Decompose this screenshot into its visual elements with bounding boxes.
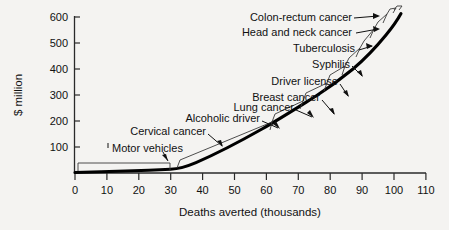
x-tick-100: 100 bbox=[385, 184, 403, 196]
x-tick-80: 80 bbox=[324, 184, 336, 196]
x-tick-0: 0 bbox=[72, 184, 78, 196]
y-axis-title: $ million bbox=[12, 74, 24, 116]
x-tick-110: 110 bbox=[417, 184, 435, 196]
y-tick-200: 200 bbox=[50, 115, 68, 127]
label-cervical-cancer: Cervical cancer bbox=[130, 125, 206, 137]
chart-svg: 600 500 400 300 200 100 0 10 20 30 40 50… bbox=[0, 0, 449, 230]
y-tick-100: 100 bbox=[50, 141, 68, 153]
label-syphilis: Syphilis bbox=[312, 58, 350, 70]
chart-figure: 600 500 400 300 200 100 0 10 20 30 40 50… bbox=[0, 0, 449, 230]
label-motor-vehicles: Motor vehicles bbox=[112, 142, 183, 154]
label-head-and-neck-cancer: Head and neck cancer bbox=[242, 26, 352, 38]
x-tick-30: 30 bbox=[165, 184, 177, 196]
x-tick-70: 70 bbox=[292, 184, 304, 196]
label-alcoholic-driver: Alcoholic driver bbox=[185, 112, 260, 124]
label-driver-license: Driver license bbox=[271, 75, 338, 87]
x-tick-60: 60 bbox=[260, 184, 272, 196]
y-tick-500: 500 bbox=[50, 37, 68, 49]
x-tick-10: 10 bbox=[101, 184, 113, 196]
y-tick-400: 400 bbox=[50, 63, 68, 75]
label-tuberculosis: Tuberculosis bbox=[293, 42, 355, 54]
x-tick-90: 90 bbox=[356, 184, 368, 196]
x-axis-title: Deaths averted (thousands) bbox=[179, 206, 321, 218]
x-tick-20: 20 bbox=[133, 184, 145, 196]
label-colon-rectum-cancer: Colon-rectum cancer bbox=[250, 11, 352, 23]
x-tick-40: 40 bbox=[196, 184, 208, 196]
y-tick-600: 600 bbox=[50, 11, 68, 23]
x-tick-50: 50 bbox=[228, 184, 240, 196]
y-tick-300: 300 bbox=[50, 89, 68, 101]
